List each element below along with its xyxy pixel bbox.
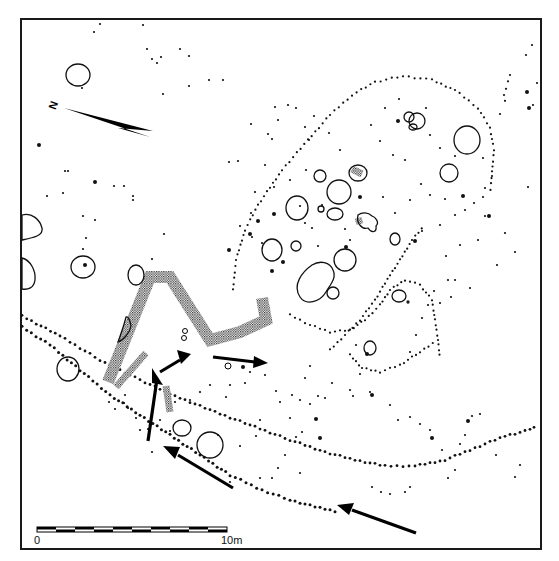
post-hole [188, 55, 190, 57]
post-hole [503, 94, 505, 96]
post-hole [447, 279, 449, 281]
post-hole [439, 302, 441, 304]
post-hole [89, 352, 92, 355]
post-hole [379, 303, 381, 305]
post-hole [509, 433, 512, 436]
post-hole [349, 457, 352, 460]
post-hole [234, 265, 236, 267]
arrow-shaft [352, 510, 416, 533]
post-hole [324, 397, 326, 399]
post-hole [104, 390, 107, 393]
post-hole [536, 82, 538, 84]
post-hole [266, 491, 269, 494]
post-hole [454, 279, 456, 281]
post-hole-large [396, 119, 400, 123]
arrow-mid [163, 446, 233, 488]
arrowhead-icon [253, 356, 268, 368]
post-hole [427, 304, 429, 306]
post-hole [233, 277, 235, 279]
post-hole [344, 330, 346, 332]
post-hole [393, 286, 395, 288]
post-hole [336, 341, 338, 343]
post-hole [349, 353, 351, 355]
post-hole [477, 108, 479, 110]
post-hole [139, 414, 142, 417]
post-hole [398, 98, 400, 100]
post-hole [493, 149, 495, 151]
post-hole [244, 382, 246, 384]
post-hole [304, 377, 306, 379]
stippled-trenches [108, 169, 362, 412]
post-hole [94, 219, 96, 221]
post-hole [289, 417, 291, 419]
post-hole [59, 335, 62, 338]
post-hole [429, 429, 431, 431]
post-hole [228, 161, 230, 163]
post-hole [507, 80, 509, 82]
post-hole [359, 459, 362, 462]
post-hole [81, 87, 83, 89]
post-hole [459, 453, 462, 456]
post-hole [529, 428, 532, 431]
post-hole [132, 195, 134, 197]
post-hole [379, 291, 381, 293]
post-hole [233, 283, 235, 285]
post-hole [428, 294, 430, 296]
post-hole [419, 423, 421, 425]
post-hole [123, 185, 125, 187]
post-hole [533, 426, 536, 429]
post-hole [482, 157, 484, 159]
post-hole [409, 243, 411, 245]
post-hole [194, 451, 197, 454]
post-hole [263, 195, 265, 197]
post-hole [484, 187, 486, 189]
post-hole [64, 170, 66, 172]
post-hole [104, 361, 107, 364]
post-hole [371, 312, 373, 314]
post-hole [162, 93, 164, 95]
post-hole [308, 139, 310, 141]
post-hole [399, 258, 401, 260]
post-hole [331, 382, 333, 384]
post-hole [525, 54, 527, 56]
north-arrow: N [46, 99, 153, 137]
post-hole [82, 215, 84, 217]
post-hole [454, 89, 456, 91]
post-hole [411, 355, 413, 357]
post-hole [361, 367, 363, 369]
post-hole [199, 404, 202, 407]
post-hole [334, 453, 337, 456]
post-holes [37, 23, 538, 495]
post-hole [471, 415, 473, 417]
post-hole [252, 214, 254, 216]
post-hole [295, 107, 297, 109]
post-hole [109, 393, 112, 396]
post-hole [369, 83, 371, 85]
post-hole [514, 433, 517, 436]
post-hole [437, 339, 439, 341]
post-hole [229, 417, 232, 420]
post-hole [275, 390, 277, 392]
post-hole [272, 493, 275, 496]
post-hole [409, 351, 411, 353]
post-hole [127, 407, 129, 409]
post-hole [160, 56, 162, 58]
post-hole [189, 401, 192, 404]
arrow-shaft [148, 379, 157, 441]
post-hole [464, 434, 466, 436]
post-hole [319, 328, 321, 330]
post-hole [301, 431, 303, 433]
post-hole [289, 313, 291, 315]
post-hole [199, 391, 201, 393]
pit-outline [318, 206, 324, 212]
post-hole [160, 428, 163, 431]
post-hole [250, 483, 253, 486]
post-hole [211, 462, 214, 465]
post-hole [379, 372, 381, 374]
post-hole [391, 270, 393, 272]
post-hole [444, 198, 446, 200]
post-hole [435, 329, 437, 331]
post-hole [486, 122, 488, 124]
post-hole [421, 230, 423, 232]
post-hole [66, 358, 69, 361]
